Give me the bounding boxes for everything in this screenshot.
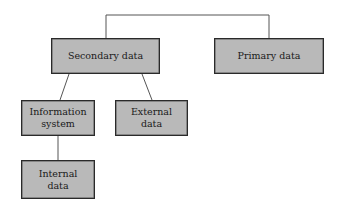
secondary-to-external-line bbox=[142, 74, 152, 100]
primary-data-label: Primary data bbox=[238, 50, 301, 62]
secondary-to-information-system-line bbox=[60, 74, 69, 100]
external-data-label: External data bbox=[131, 106, 172, 130]
external-data-box: External data bbox=[115, 100, 188, 136]
internal-data-box: Internal data bbox=[21, 160, 95, 199]
internal-data-label: Internal data bbox=[39, 168, 78, 192]
information-system-box: Information system bbox=[21, 100, 95, 136]
root-connector bbox=[106, 15, 269, 38]
secondary-data-box: Secondary data bbox=[51, 38, 160, 74]
secondary-data-label: Secondary data bbox=[68, 50, 143, 62]
information-system-label: Information system bbox=[29, 106, 86, 130]
primary-data-box: Primary data bbox=[214, 38, 324, 74]
